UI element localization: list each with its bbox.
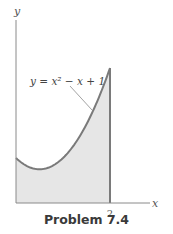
plot-area: y x 2 y = x² − x + 1: [0, 0, 173, 234]
shaded-area: [16, 68, 110, 203]
curve-label: y = x² − x + 1: [29, 75, 105, 87]
figure: y x 2 y = x² − x + 1 Problem 7.4: [0, 0, 173, 234]
y-axis-label: y: [13, 5, 21, 18]
label-leader-line: [70, 86, 92, 110]
x-axis-label: x: [152, 197, 159, 210]
figure-caption: Problem 7.4: [0, 212, 173, 227]
